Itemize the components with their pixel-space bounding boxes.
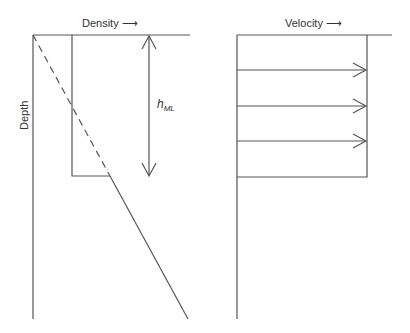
density-linear-profile bbox=[110, 176, 188, 319]
mixed-layer-diagram: Density ⟶ Velocity ⟶ Depth hML bbox=[0, 0, 410, 333]
hml-main: h bbox=[157, 97, 164, 111]
velocity-label: Velocity bbox=[285, 17, 323, 29]
velocity-arrow-1 bbox=[237, 63, 366, 77]
velocity-title: Velocity ⟶ bbox=[285, 17, 342, 30]
mixed-layer-depth-label: hML bbox=[157, 97, 175, 113]
arrow-right-icon: ⟶ bbox=[326, 17, 342, 29]
velocity-arrow-2 bbox=[237, 99, 366, 113]
density-step-profile bbox=[72, 35, 110, 176]
depth-axis-label: Depth bbox=[18, 101, 30, 130]
diagram-lines bbox=[0, 0, 410, 333]
hml-subscript: ML bbox=[164, 104, 175, 113]
arrow-right-icon: ⟶ bbox=[122, 17, 138, 29]
density-title: Density ⟶ bbox=[82, 17, 138, 30]
density-label: Density bbox=[82, 17, 119, 29]
velocity-arrow-3 bbox=[237, 134, 366, 148]
mixed-layer-depth-arrow bbox=[142, 36, 156, 176]
